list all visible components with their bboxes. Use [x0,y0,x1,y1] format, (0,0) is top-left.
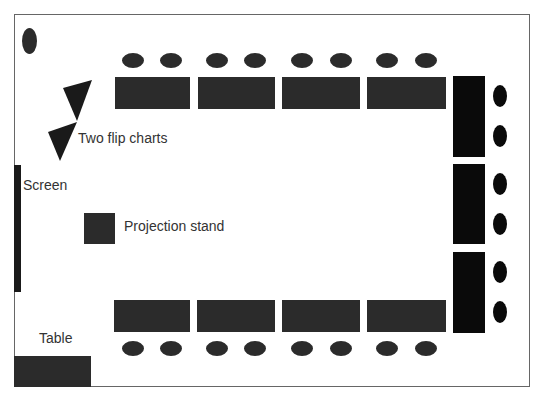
chair [376,53,398,68]
chair [493,173,507,195]
chair [122,341,144,356]
flip-chart-icon [60,78,94,124]
chair [493,125,507,147]
screen-label: Screen [23,177,67,193]
side-table [14,356,91,387]
chair [244,341,266,356]
right-table-2 [453,164,485,244]
flip-charts-label: Two flip charts [78,130,167,146]
chair [22,28,37,54]
screen [14,165,21,292]
right-table-1 [453,76,485,157]
chair [244,53,266,68]
chair [493,261,507,283]
chair [291,341,313,356]
chair [160,341,182,356]
chair [376,341,398,356]
chair [493,85,507,107]
chair [206,53,228,68]
chair [493,213,507,235]
bottom-table-4 [367,300,446,332]
chair [330,341,352,356]
chair [291,53,313,68]
chair [493,301,507,323]
top-table-4 [367,77,446,109]
table-label: Table [39,330,72,346]
bottom-table-2 [197,300,275,332]
chair [160,53,182,68]
projection-stand [84,213,115,244]
top-table-1 [115,77,190,109]
top-table-3 [282,77,360,109]
right-table-3 [453,252,485,333]
chair [122,53,144,68]
bottom-table-3 [282,300,360,332]
flip-chart-icon [46,120,80,162]
chair [330,53,352,68]
projection-stand-label: Projection stand [124,218,224,234]
bottom-table-1 [114,300,190,332]
chair [415,53,437,68]
chair [206,341,228,356]
chair [415,341,437,356]
top-table-2 [198,77,275,109]
